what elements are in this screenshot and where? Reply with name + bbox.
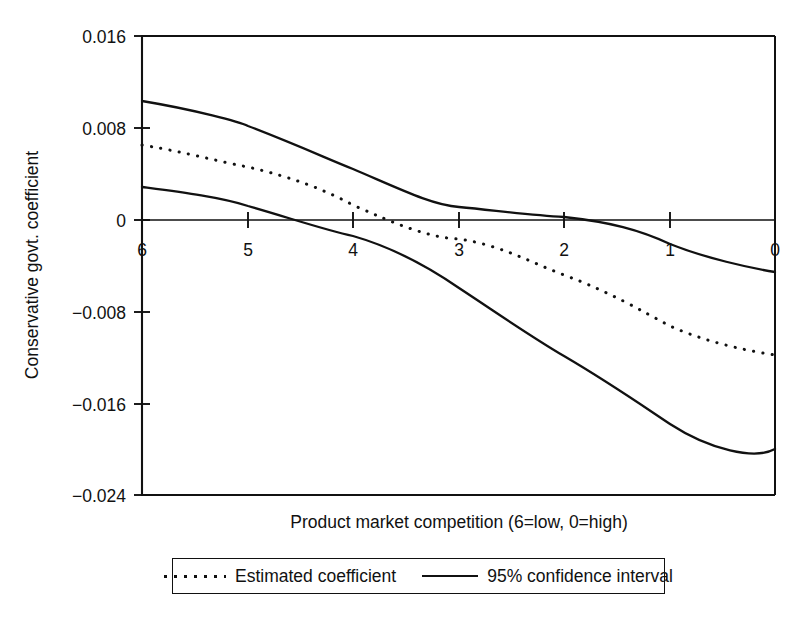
legend-entry-estimated-coefficient: Estimated coefficient — [164, 566, 396, 587]
y-tick-label-4: −0.016 — [72, 395, 126, 415]
x-tick-label-2: 4 — [348, 240, 358, 260]
x-tick-label-4: 2 — [559, 240, 569, 260]
y-tick-label-2: 0 — [116, 211, 126, 231]
y-tick-label-0: 0.016 — [82, 27, 126, 47]
y-tick-label-5: −0.024 — [72, 486, 126, 506]
dotted-line-swatch-icon — [164, 575, 226, 578]
chart-figure: 0.016 0.008 0 −0.008 −0.016 −0.024 6 5 4… — [0, 0, 799, 622]
x-tick-label-5: 1 — [665, 240, 675, 260]
x-tick-label-3: 3 — [454, 240, 464, 260]
x-tick-label-1: 5 — [243, 240, 253, 260]
chart-legend: Estimated coefficient 95% confidence int… — [172, 558, 665, 594]
legend-label-estimated-coefficient: Estimated coefficient — [235, 566, 396, 587]
y-axis-title: Conservative govt. coefficient — [22, 151, 42, 379]
x-tick-label-6: 0 — [770, 240, 780, 260]
legend-label-confidence-interval: 95% confidence interval — [487, 566, 673, 587]
legend-entry-confidence-interval: 95% confidence interval — [422, 566, 673, 587]
chart-plot-svg: 0.016 0.008 0 −0.008 −0.016 −0.024 6 5 4… — [0, 0, 799, 622]
x-tick-label-0: 6 — [137, 240, 147, 260]
y-tick-label-3: −0.008 — [72, 303, 126, 323]
y-tick-label-1: 0.008 — [82, 119, 126, 139]
solid-line-swatch-icon — [422, 575, 478, 578]
x-axis-title: Product market competition (6=low, 0=hig… — [290, 512, 628, 532]
